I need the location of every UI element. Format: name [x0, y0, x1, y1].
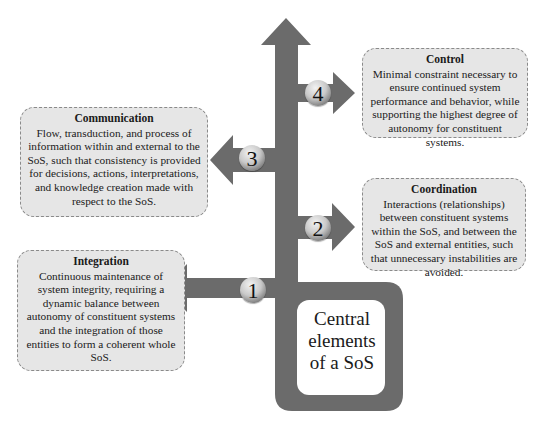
box-description: Interactions (relationships) between con… [369, 198, 519, 280]
center-label-line: Central [300, 308, 384, 330]
box-title: Integration [24, 255, 178, 269]
communication-box: Communication Flow, transduction, and pr… [20, 107, 208, 217]
box-description: Minimal constraint necessary to ensure c… [369, 68, 521, 150]
box-description: Continuous maintenance of system integri… [24, 270, 178, 365]
number-badge-1: 1 [240, 277, 266, 303]
integration-box: Integration Continuous maintenance of sy… [17, 250, 185, 371]
center-label: Central elements of a SoS [300, 308, 384, 374]
box-title: Control [369, 53, 521, 67]
control-box: Control Minimal constraint necessary to … [362, 48, 528, 138]
center-label-line: elements [300, 330, 384, 352]
box-description: Flow, transduction, and process of infor… [27, 127, 201, 209]
number-badge-4: 4 [305, 80, 331, 106]
number-badge-2: 2 [305, 215, 331, 241]
box-title: Communication [27, 112, 201, 126]
coordination-box: Coordination Interactions (relationships… [362, 178, 526, 271]
center-label-line: of a SoS [300, 352, 384, 374]
sos-elements-diagram: 4 3 2 1 Central elements of a SoS Contro… [0, 0, 543, 423]
box-title: Coordination [369, 183, 519, 197]
number-badge-3: 3 [239, 145, 265, 171]
